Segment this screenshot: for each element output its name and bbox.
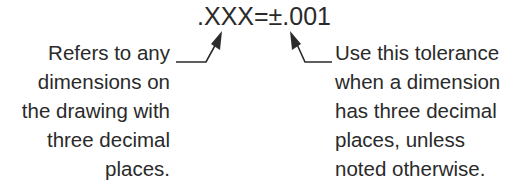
left-leader-arrow-icon	[176, 31, 222, 62]
leader-lines	[0, 0, 524, 195]
right-leader-arrow-icon	[290, 31, 332, 62]
